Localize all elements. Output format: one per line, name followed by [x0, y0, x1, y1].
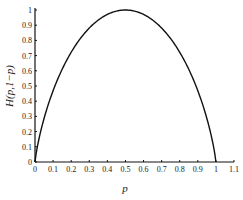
y-tick-label: 0.7: [22, 52, 32, 61]
y-axis: 00.10.20.30.40.50.60.70.80.91: [22, 6, 37, 167]
x-tick-label: 0.9: [193, 165, 203, 174]
entropy-chart: 00.10.20.30.40.50.60.70.80.91 00.10.20.3…: [0, 0, 243, 200]
y-tick-label: 0.1: [22, 143, 32, 152]
y-tick-label: 0.5: [22, 82, 32, 91]
x-tick-label: 0.7: [157, 165, 167, 174]
x-tick-label: 0.5: [120, 165, 130, 174]
x-tick-label: 0: [33, 165, 37, 174]
x-tick-label: 0.6: [139, 165, 149, 174]
entropy-curve: [35, 10, 216, 162]
y-tick-label: 0.9: [22, 21, 32, 30]
y-tick-label: 0: [28, 158, 32, 167]
x-tick-label: 0.1: [48, 165, 58, 174]
x-axis: 00.10.20.30.40.50.60.70.80.911.1: [33, 160, 239, 174]
y-tick-label: 1: [28, 6, 32, 15]
x-tick-label: 1: [214, 165, 218, 174]
y-tick-label: 0.3: [22, 112, 32, 121]
x-tick-label: 0.2: [66, 165, 76, 174]
x-axis-label: p: [121, 182, 128, 194]
y-tick-label: 0.8: [22, 36, 32, 45]
y-tick-label: 0.4: [22, 97, 32, 106]
x-tick-label: 0.8: [175, 165, 185, 174]
x-tick-label: 0.4: [102, 165, 112, 174]
y-axis-label: H(p,1−p): [3, 65, 16, 108]
x-tick-label: 1.1: [229, 165, 239, 174]
x-tick-label: 0.3: [84, 165, 94, 174]
y-tick-label: 0.6: [22, 67, 32, 76]
y-tick-label: 0.2: [22, 128, 32, 137]
